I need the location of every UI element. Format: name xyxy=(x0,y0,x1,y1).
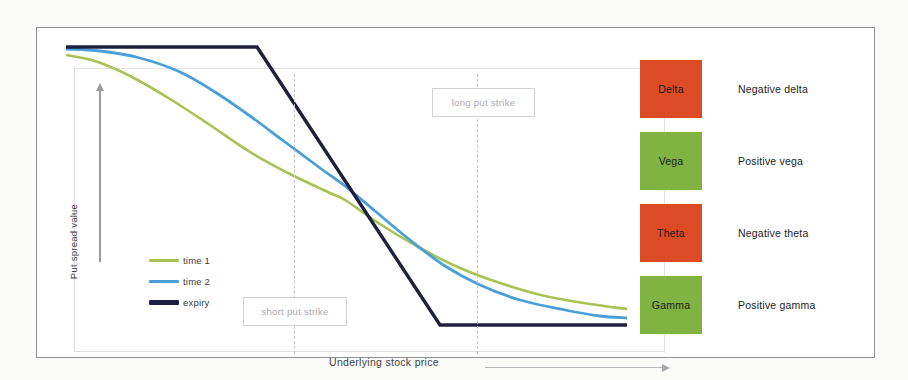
legend-swatch-expiry-icon xyxy=(149,300,179,304)
legend-item-time-2: time 2 xyxy=(149,271,210,292)
legend-swatch-time-2-icon xyxy=(149,280,179,283)
greek-row-gamma: GammaPositive gamma xyxy=(640,276,816,334)
greek-name: Theta xyxy=(657,227,685,239)
x-axis-arrow xyxy=(485,367,663,368)
long-put-strike-callout: long put strike xyxy=(432,88,535,117)
greek-name: Vega xyxy=(659,155,684,167)
legend-label: time 1 xyxy=(183,255,210,266)
greek-row-delta: DeltaNegative delta xyxy=(640,60,808,118)
greek-description: Positive vega xyxy=(738,155,803,167)
legend-label: expiry xyxy=(183,297,210,308)
put-spread-chart: short put strike long put strike Put spr… xyxy=(37,28,629,357)
greek-box-gamma: Gamma xyxy=(640,276,702,334)
greek-row-vega: VegaPositive vega xyxy=(640,132,803,190)
greek-row-theta: ThetaNegative theta xyxy=(640,204,809,262)
greek-description: Positive gamma xyxy=(738,299,816,311)
legend-label: time 2 xyxy=(183,276,210,287)
greeks-legend-panel: DeltaNegative deltaVegaPositive vegaThet… xyxy=(640,28,874,357)
x-axis-label: Underlying stock price xyxy=(329,356,439,368)
long-put-strike-label: long put strike xyxy=(452,97,516,108)
y-axis-label: Put spread value xyxy=(68,182,79,302)
legend-item-expiry: expiry xyxy=(149,292,210,313)
greek-description: Negative theta xyxy=(738,227,809,239)
short-put-strike-label: short put strike xyxy=(261,306,328,317)
greek-name: Gamma xyxy=(652,299,690,311)
figure-page: short put strike long put strike Put spr… xyxy=(0,0,908,380)
legend-swatch-time-1-icon xyxy=(149,259,179,262)
chart-legend: time 1time 2expiry xyxy=(149,250,210,313)
short-put-strike-callout: short put strike xyxy=(243,297,347,326)
y-axis-arrow xyxy=(99,90,101,262)
greek-description: Negative delta xyxy=(738,83,808,95)
greek-box-theta: Theta xyxy=(640,204,702,262)
legend-item-time-1: time 1 xyxy=(149,250,210,271)
greek-box-delta: Delta xyxy=(640,60,702,118)
greek-name: Delta xyxy=(658,83,684,95)
greek-box-vega: Vega xyxy=(640,132,702,190)
